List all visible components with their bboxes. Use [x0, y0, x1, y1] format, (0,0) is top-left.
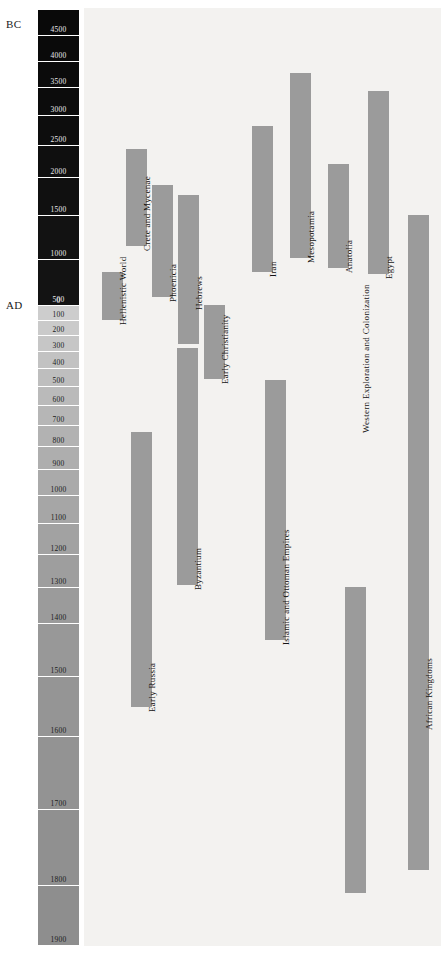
scale-band-4000: 4000 — [38, 36, 79, 62]
scale-tick-label: 1900 — [38, 935, 79, 944]
bar-african-kingdoms[interactable] — [408, 215, 429, 870]
scale-tick-label: 1200 — [38, 544, 79, 553]
scale-band-1200: 1200 — [38, 524, 79, 555]
scale-tick-label: 3500 — [38, 77, 79, 86]
scale-tick-label: 800 — [38, 436, 79, 445]
scale-tick-label: 4000 — [38, 51, 79, 60]
scale-tick-label: 100 — [38, 310, 79, 319]
bar-label: Hellenistic World — [118, 257, 128, 325]
scale-tick-label: 200 — [38, 325, 79, 334]
scale-band-300: 300 — [38, 336, 79, 352]
scale-band-400: 400 — [38, 352, 79, 369]
scale-band-1500: 1500 — [38, 624, 79, 677]
scale-band-1700: 1700 — [38, 737, 79, 810]
bar-label: Byzantium — [193, 548, 203, 590]
scale-tick-label: 1600 — [38, 726, 79, 735]
bar-label: Iran — [268, 261, 278, 277]
bar-label: Crete and Mycenae — [142, 176, 152, 251]
bar-label: Hebrews — [194, 276, 204, 310]
scale-tick-label: 1800 — [38, 875, 79, 884]
scale-tick-label: 900 — [38, 459, 79, 468]
scale-tick-label: 1100 — [38, 513, 79, 522]
bar-iran[interactable] — [252, 126, 273, 272]
scale-band-100: 100 — [38, 306, 79, 321]
bar-label: Islamic and Ottoman Empires — [281, 529, 291, 645]
bar-label: Mesopotamia — [306, 211, 316, 263]
scale-tick-label-zero: 0 — [38, 296, 79, 305]
scale-tick-label: 400 — [38, 358, 79, 367]
scale-band-600: 600 — [38, 387, 79, 406]
bar-egypt[interactable] — [368, 91, 389, 274]
scale-tick-label: 1000 — [38, 485, 79, 494]
era-marker-bc: BC — [6, 18, 21, 30]
scale-band-1800: 1800 — [38, 810, 79, 886]
scale-band-1000: 1000 — [38, 470, 79, 496]
scale-band-1900: 1900 — [38, 886, 79, 946]
bar-hebrews[interactable] — [178, 195, 199, 344]
scale-band-4500: 4500 — [38, 10, 79, 36]
scale-band-3000: 3000 — [38, 88, 79, 116]
bar-western-exploration-and-colonization[interactable] — [345, 587, 366, 893]
scale-band-200: 200 — [38, 321, 79, 336]
scale-tick-label: 600 — [38, 395, 79, 404]
scale-tick-label: 300 — [38, 341, 79, 350]
scale-band-500: 500 — [38, 369, 79, 387]
scale-band-1600: 1600 — [38, 677, 79, 737]
scale-tick-label: 700 — [38, 415, 79, 424]
bar-label: Early Russia — [147, 663, 157, 712]
scale-band-3500: 3500 — [38, 62, 79, 88]
bar-label: Anatolia — [344, 240, 354, 273]
scale-band-1100: 1100 — [38, 496, 79, 524]
bar-label: Western Exploration and Colonization — [361, 284, 371, 433]
scale-tick-label: 1000 — [38, 249, 79, 258]
scale-tick-label: 4500 — [38, 25, 79, 34]
scale-tick-label: 500 — [38, 376, 79, 385]
scale-band-2500: 2500 — [38, 116, 79, 146]
scale-band-1300: 1300 — [38, 555, 79, 588]
scale-tick-label: 2500 — [38, 135, 79, 144]
scale-tick-label: 1300 — [38, 577, 79, 586]
scale-band-2000: 2000 — [38, 146, 79, 178]
scale-tick-label: 1400 — [38, 613, 79, 622]
era-marker-ad: AD — [6, 299, 23, 311]
scale-band-800: 800 — [38, 426, 79, 447]
scale-tick-label: 2000 — [38, 167, 79, 176]
bar-label: Egypt — [384, 256, 394, 279]
scale-tick-label: 1500 — [38, 666, 79, 675]
bar-label: Phoenicia — [168, 264, 178, 302]
time-scale-axis: 4500400035003000250020001500100050010020… — [38, 10, 79, 946]
scale-tick-label: 1500 — [38, 205, 79, 214]
scale-band-1500: 1500 — [38, 178, 79, 216]
scale-tick-label: 3000 — [38, 105, 79, 114]
scale-band-1000: 1000 — [38, 216, 79, 260]
scale-band-900: 900 — [38, 447, 79, 470]
scale-tick-label: 1700 — [38, 799, 79, 808]
scale-band-1400: 1400 — [38, 588, 79, 624]
bar-label: Early Christianity — [220, 314, 230, 384]
scale-band-700: 700 — [38, 406, 79, 426]
timeline-figure: BC AD 4500400035003000250020001500100050… — [0, 0, 445, 954]
bar-label: African Kingdoms — [424, 658, 434, 730]
